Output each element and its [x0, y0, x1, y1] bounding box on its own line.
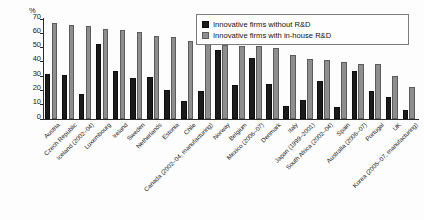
- bar: [409, 87, 415, 118]
- bar: [69, 25, 75, 119]
- bar-group: [95, 19, 112, 119]
- bar: [130, 78, 136, 119]
- bar-group: [146, 19, 163, 119]
- bar: [403, 110, 409, 119]
- bar: [290, 55, 296, 119]
- bar: [386, 97, 392, 118]
- bar: [300, 100, 306, 119]
- y-axis-tick-mark: [40, 19, 44, 20]
- bar-group: [61, 19, 78, 119]
- bar: [86, 26, 92, 119]
- y-axis-tick-mark: [40, 119, 44, 120]
- bar: [324, 60, 330, 119]
- bar-group: [112, 19, 129, 119]
- x-axis-tick-label: Australia (2006–07): [324, 121, 367, 164]
- bar: [205, 44, 211, 119]
- bar: [198, 91, 204, 119]
- x-axis-tick-label: Estonia: [160, 121, 180, 141]
- bar: [96, 44, 102, 118]
- bar: [249, 58, 255, 119]
- black-square-icon: [202, 21, 209, 28]
- bar-group: [180, 19, 197, 119]
- bar-group: [163, 19, 180, 119]
- x-axis-tick-label: Austria: [42, 121, 61, 140]
- x-axis-tick-label: Mexico (2006–07): [225, 121, 265, 161]
- bar: [317, 81, 323, 118]
- legend-item-label: Innovative firms with in-house R&D: [213, 31, 331, 40]
- bar: [113, 71, 119, 118]
- y-axis-tick-labels: 010203040506070: [24, 16, 41, 118]
- x-axis-tick-label: Portugal: [363, 121, 384, 142]
- bar: [79, 94, 85, 118]
- bar: [45, 74, 51, 118]
- x-axis-tick-label: Italy: [286, 121, 299, 134]
- bar: [352, 71, 358, 118]
- bar: [103, 29, 109, 118]
- x-axis-tick-label: Norway: [211, 121, 231, 141]
- bar: [164, 90, 170, 119]
- bar: [392, 76, 398, 118]
- y-axis-tick-mark: [40, 33, 44, 34]
- bar: [120, 30, 126, 119]
- legend-item: Innovative firms without R&D: [202, 19, 404, 29]
- y-axis-tick-mark: [40, 104, 44, 105]
- bar-group: [44, 19, 61, 119]
- bar: [283, 106, 289, 119]
- chart-legend: Innovative firms without R&D Innovative …: [196, 14, 409, 45]
- bar-group: [129, 19, 146, 119]
- x-axis-tick-label: UK: [391, 121, 402, 132]
- bar: [232, 85, 238, 119]
- bar: [52, 23, 58, 119]
- bar: [137, 32, 143, 118]
- x-axis-tick-label: Belgium: [227, 121, 248, 142]
- bar: [239, 46, 245, 119]
- x-axis-tick-label: Japan (1999–2001): [274, 121, 317, 164]
- bar: [147, 77, 153, 118]
- y-axis-tick-mark: [40, 90, 44, 91]
- bar: [188, 41, 194, 118]
- bar-chart: % 010203040506070 AustriaCzech RepublicI…: [0, 0, 424, 220]
- bar: [222, 45, 228, 119]
- x-axis-tick-label: Ireland: [111, 121, 129, 139]
- bar-group: [78, 19, 95, 119]
- x-axis-tick-label: Netherlands: [134, 121, 163, 150]
- y-axis-tick-mark: [40, 61, 44, 62]
- y-axis-tick-mark: [40, 76, 44, 77]
- x-axis-tick-label: Chile: [182, 121, 197, 136]
- bar: [334, 107, 340, 118]
- bar: [154, 36, 160, 118]
- bar: [215, 50, 221, 119]
- x-axis-tick-label: South Africa (2002–04): [284, 121, 334, 171]
- legend-item-label: Innovative firms without R&D: [213, 20, 311, 29]
- bar: [181, 101, 187, 118]
- x-axis-tick-label: Czech Republic: [42, 121, 78, 157]
- gray-square-icon: [202, 32, 209, 39]
- x-axis-line: [43, 119, 419, 120]
- bar: [369, 91, 375, 119]
- bar: [266, 84, 272, 119]
- x-axis-tick-label: Denmark: [260, 121, 283, 144]
- bar: [171, 37, 177, 118]
- bar: [307, 59, 313, 119]
- x-axis-tick-label: Luxembourg: [83, 121, 112, 150]
- x-axis-tick-label: Sweden: [125, 121, 146, 142]
- x-axis-tick-label: Spain: [334, 121, 350, 137]
- bar: [341, 62, 347, 118]
- bar: [256, 46, 262, 118]
- bar: [62, 75, 68, 119]
- x-axis-tick-label: Canada (2002–04, manufacturing): [143, 121, 215, 193]
- bar: [375, 64, 381, 118]
- x-axis-tick-label: Korea (2005–07, manufacturing): [351, 121, 419, 189]
- x-axis-tick-label: Iceland (2002–04): [55, 121, 95, 161]
- legend-item: Innovative firms with in-house R&D: [202, 30, 404, 40]
- y-axis-tick-mark: [40, 47, 44, 48]
- bar: [273, 48, 279, 119]
- bar: [358, 64, 364, 119]
